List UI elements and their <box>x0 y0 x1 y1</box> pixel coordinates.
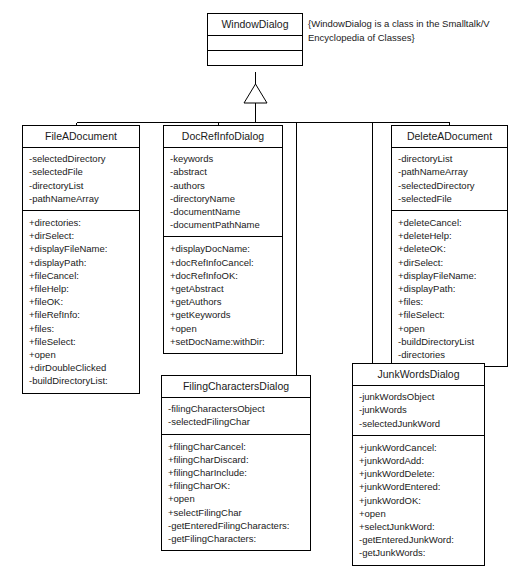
operation: -getFilingCharacters: <box>162 532 310 545</box>
class-box-filingcharactersdialog[interactable]: FilingCharactersDialog -filingCharacters… <box>161 375 311 551</box>
operation: -directories <box>392 348 507 361</box>
class-operations-docrefinfodialog: +displayDocName: +docRefInfoCancel: +doc… <box>164 237 282 353</box>
operation: +filingCharCancel: <box>162 440 310 453</box>
operation: +displayPath: <box>392 282 507 295</box>
note-line: Encyclopedia of Classes} <box>308 31 520 45</box>
generalization-triangle <box>244 84 267 103</box>
operation: +selectFilingChar <box>162 506 310 519</box>
operation: +filingCharOK: <box>162 479 310 492</box>
operation: -getEnteredJunkWord: <box>353 533 484 546</box>
class-box-junkwordsdialog[interactable]: JunkWordsDialog -junkWordsObject -junkWo… <box>352 363 485 566</box>
operation: +displayDocName: <box>164 242 282 255</box>
operation: +selectJunkWord: <box>353 520 484 533</box>
attribute: -authors <box>164 179 282 192</box>
attribute: -selectedDirectory <box>23 152 139 165</box>
operation: +junkWordCancel: <box>353 441 484 454</box>
class-box-fileadocument[interactable]: FileADocument -selectedDirectory -select… <box>22 125 140 394</box>
operation: +files: <box>392 295 507 308</box>
operation: +getAuthors <box>164 295 282 308</box>
attribute: -abstract <box>164 165 282 178</box>
attribute: -keywords <box>164 152 282 165</box>
operation: +displayFileName: <box>23 242 139 255</box>
operation: -getJunkWords: <box>353 546 484 559</box>
attribute: -directoryName <box>164 192 282 205</box>
class-operations-fileadocument: +directories: +dirSelect: +displayFileNa… <box>23 211 139 393</box>
operation: +junkWordOK: <box>353 494 484 507</box>
attribute: -pathNameArray <box>392 165 507 178</box>
attribute: -documentPathName <box>164 218 282 231</box>
operation: -buildDirectoryList <box>392 335 507 348</box>
operation: +displayPath: <box>23 256 139 269</box>
attribute: -selectedJunkWord <box>353 417 484 430</box>
class-operations-filingcharactersdialog: +filingCharCancel: +filingCharDiscard: +… <box>162 435 310 551</box>
class-box-windowdialog[interactable]: WindowDialog <box>207 13 303 66</box>
operation: +fileSelect: <box>392 308 507 321</box>
attribute: -selectedFilingChar <box>162 415 310 428</box>
class-name-fileadocument: FileADocument <box>23 126 139 148</box>
operation: -getEnteredFilingCharacters: <box>162 519 310 532</box>
operation: +deleteHelp: <box>392 229 507 242</box>
operation: +docRefInfoCancel: <box>164 256 282 269</box>
class-operations-deleteadocument: +deleteCancel: +deleteHelp: +deleteOK: +… <box>392 211 507 366</box>
operation: +dirSelect: <box>23 229 139 242</box>
operation: +deleteCancel: <box>392 216 507 229</box>
class-name-filingcharactersdialog: FilingCharactersDialog <box>162 376 310 398</box>
attribute: -directoryList <box>23 179 139 192</box>
operation: +filingCharInclude: <box>162 466 310 479</box>
operation: +dirSelect: <box>392 256 507 269</box>
operation: +open <box>353 507 484 520</box>
operation: +fileCancel: <box>23 269 139 282</box>
class-attributes-filingcharactersdialog: -filingCharactersObject -selectedFilingC… <box>162 398 310 434</box>
class-attributes-windowdialog <box>208 36 302 51</box>
operation: +displayFileName: <box>392 269 507 282</box>
operation: +fileRefInfo: <box>23 308 139 321</box>
operation: +open <box>162 492 310 505</box>
attribute: -filingCharactersObject <box>162 402 310 415</box>
operation: +deleteOK: <box>392 242 507 255</box>
class-box-deleteadocument[interactable]: DeleteADocument -directoryList -pathName… <box>391 125 508 367</box>
class-attributes-deleteadocument: -directoryList -pathNameArray -selectedD… <box>392 148 507 211</box>
class-box-docrefinfodialog[interactable]: DocRefInfoDialog -keywords -abstract -au… <box>163 125 283 354</box>
operation: +junkWordEntered: <box>353 480 484 493</box>
operation: +fileOK: <box>23 295 139 308</box>
operation: -buildDirectoryList: <box>23 374 139 387</box>
attribute: -directoryList <box>392 152 507 165</box>
operation: +filingCharDiscard: <box>162 453 310 466</box>
class-attributes-docrefinfodialog: -keywords -abstract -authors -directoryN… <box>164 148 282 237</box>
operation: +fileHelp: <box>23 282 139 295</box>
class-attributes-junkwordsdialog: -junkWordsObject -junkWords -selectedJun… <box>353 386 484 436</box>
operation: +fileSelect: <box>23 335 139 348</box>
operation: +directories: <box>23 216 139 229</box>
attribute: -junkWords <box>353 403 484 416</box>
operation: +junkWordAdd: <box>353 454 484 467</box>
class-operations-windowdialog <box>208 51 302 65</box>
operation: +junkWordDelete: <box>353 467 484 480</box>
class-name-windowdialog: WindowDialog <box>208 14 302 36</box>
operation: +getKeywords <box>164 308 282 321</box>
note-line: {WindowDialog is a class in the Smalltal… <box>308 17 520 31</box>
operation: +open <box>23 348 139 361</box>
operation: +open <box>164 322 282 335</box>
operation: +getAbstract <box>164 282 282 295</box>
operation: +files: <box>23 322 139 335</box>
attribute: -selectedFile <box>23 165 139 178</box>
operation: +dirDoubleClicked <box>23 361 139 374</box>
class-name-junkwordsdialog: JunkWordsDialog <box>353 364 484 386</box>
attribute: -pathNameArray <box>23 192 139 205</box>
attribute: -junkWordsObject <box>353 390 484 403</box>
operation: +docRefInfoOK: <box>164 269 282 282</box>
attribute: -selectedDirectory <box>392 179 507 192</box>
attribute: -selectedFile <box>392 192 507 205</box>
class-name-docrefinfodialog: DocRefInfoDialog <box>164 126 282 148</box>
windowdialog-note: {WindowDialog is a class in the Smalltal… <box>308 17 520 44</box>
operation: +setDocName:withDir: <box>164 335 282 348</box>
operation: +open <box>392 322 507 335</box>
class-attributes-fileadocument: -selectedDirectory -selectedFile -direct… <box>23 148 139 211</box>
class-operations-junkwordsdialog: +junkWordCancel: +junkWordAdd: +junkWord… <box>353 436 484 565</box>
class-name-deleteadocument: DeleteADocument <box>392 126 507 148</box>
attribute: -documentName <box>164 205 282 218</box>
